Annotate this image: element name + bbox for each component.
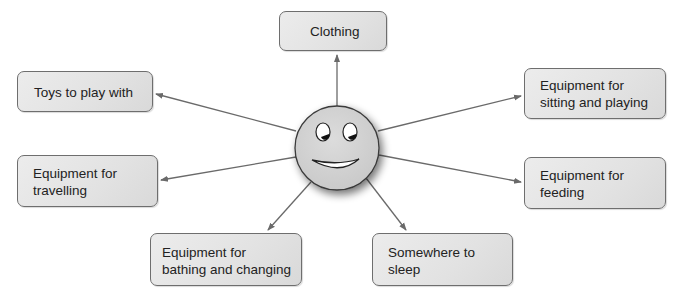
node-label: Clothing (310, 23, 360, 40)
node-label-line1: Equipment for (162, 244, 246, 261)
node-label-line1: Equipment for (540, 167, 624, 184)
node-sleep: Somewhere to sleep (372, 233, 513, 286)
arrow-to-sleep (366, 178, 406, 230)
smiley-face-icon (295, 106, 379, 190)
arrow-to-feeding (379, 155, 521, 182)
node-bathing-changing: Equipment for bathing and changing (150, 233, 302, 286)
node-label-line2: travelling (33, 182, 87, 199)
node-label-line1: Somewhere to (388, 244, 475, 261)
node-label-line2: sleep (388, 261, 420, 278)
node-label-line2: feeding (540, 184, 584, 201)
node-label: Toys to play with (34, 84, 133, 101)
arrow-to-bathing (268, 182, 311, 230)
node-feeding: Equipment for feeding (524, 157, 666, 209)
node-sitting-playing: Equipment for sitting and playing (524, 68, 666, 119)
node-label-line1: Equipment for (33, 165, 117, 182)
arrow-to-toys (156, 94, 296, 131)
node-label-line2: bathing and changing (162, 261, 291, 278)
node-travelling: Equipment for travelling (17, 155, 158, 207)
node-clothing: Clothing (279, 11, 387, 51)
arrow-to-sitting (378, 96, 521, 131)
arrow-to-travelling (161, 157, 296, 180)
node-label-line2: sitting and playing (540, 94, 648, 111)
node-label-line1: Equipment for (540, 77, 624, 94)
node-toys: Toys to play with (17, 71, 153, 112)
